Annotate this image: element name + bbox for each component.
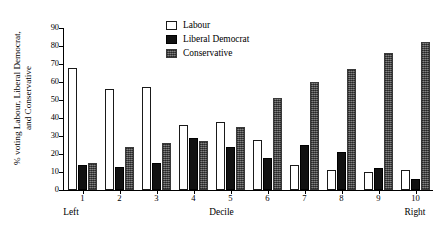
- x-axis-tick-label-9: 9: [368, 193, 390, 203]
- bar-cons-decile-5: [236, 127, 246, 190]
- y-axis-tick: [59, 82, 63, 83]
- bar-labour-decile-9: [364, 172, 374, 190]
- x-axis-tick-label-10: 10: [405, 193, 427, 203]
- y-axis-tick: [59, 190, 63, 191]
- y-axis-tick: [59, 64, 63, 65]
- bar-group-decile-8: [327, 28, 357, 190]
- bar-cons-decile-9: [384, 53, 394, 190]
- y-axis-tick: [59, 46, 63, 47]
- y-axis-tick-label: 20: [43, 150, 59, 158]
- x-axis-tick-label-3: 3: [146, 193, 168, 203]
- x-axis-tick-label-6: 6: [257, 193, 279, 203]
- y-axis-tick: [59, 100, 63, 101]
- legend-swatch-labour-icon: [166, 21, 177, 30]
- bar-labour-decile-4: [179, 125, 189, 190]
- bar-labour-decile-7: [290, 165, 300, 190]
- x-axis-tick-label-2: 2: [109, 193, 131, 203]
- y-axis-tick-label: 90: [43, 24, 59, 32]
- x-axis-line: [63, 190, 433, 191]
- y-axis-tick-label: 80: [43, 42, 59, 50]
- y-axis-tick: [59, 136, 63, 137]
- y-axis-tick-label: 30: [43, 132, 59, 140]
- bar-cons-decile-8: [347, 69, 357, 190]
- bar-chart-figure: % voting Labour, Liberal Democrat, and C…: [0, 0, 443, 234]
- y-axis-title: % voting Labour, Liberal Democrat, and C…: [0, 0, 46, 195]
- bar-libdem-decile-8: [337, 152, 347, 190]
- legend-item-libdem: Liberal Democrat: [166, 32, 316, 46]
- bar-labour-decile-2: [105, 89, 115, 190]
- bar-group-decile-1: [68, 28, 98, 190]
- bar-labour-decile-1: [68, 68, 78, 190]
- bar-libdem-decile-2: [115, 167, 125, 190]
- bar-cons-decile-6: [273, 98, 283, 190]
- bar-cons-decile-3: [162, 143, 172, 190]
- y-axis-tick-label: 70: [43, 60, 59, 68]
- bar-labour-decile-6: [253, 140, 263, 190]
- bar-labour-decile-5: [216, 122, 226, 190]
- bar-group-decile-10: [401, 28, 431, 190]
- y-axis-tick-label: 50: [43, 96, 59, 104]
- y-axis-tick: [59, 172, 63, 173]
- bar-libdem-decile-10: [411, 179, 421, 190]
- bar-libdem-decile-5: [226, 147, 236, 190]
- y-axis-title-line2: and Conservative: [23, 31, 34, 165]
- bar-labour-decile-3: [142, 87, 152, 190]
- bar-libdem-decile-1: [78, 165, 88, 190]
- y-axis-tick-label: 0: [43, 186, 59, 194]
- y-axis-title-line1: % voting Labour, Liberal Democrat,: [12, 31, 22, 165]
- x-axis-tick-label-1: 1: [72, 193, 94, 203]
- bar-libdem-decile-9: [374, 168, 384, 190]
- bar-cons-decile-10: [421, 42, 431, 190]
- bar-cons-decile-7: [310, 82, 320, 190]
- bar-cons-decile-1: [88, 163, 98, 190]
- x-axis-title: Decile: [0, 207, 443, 217]
- x-axis-tick-label-7: 7: [294, 193, 316, 203]
- bar-group-decile-2: [105, 28, 135, 190]
- y-axis-tick: [59, 154, 63, 155]
- legend-label-labour: Labour: [183, 20, 210, 31]
- bar-cons-decile-2: [125, 147, 135, 190]
- x-axis-tick-label-5: 5: [220, 193, 242, 203]
- legend-label-cons: Conservative: [183, 48, 232, 59]
- bar-libdem-decile-7: [300, 145, 310, 190]
- bar-cons-decile-4: [199, 141, 209, 190]
- legend-label-libdem: Liberal Democrat: [183, 34, 249, 45]
- legend-item-labour: Labour: [166, 18, 316, 32]
- chart-legend: LabourLiberal DemocratConservative: [166, 18, 316, 60]
- bar-labour-decile-8: [327, 170, 337, 190]
- x-axis-tick-labels: 12345678910: [63, 193, 433, 205]
- y-axis-tick: [59, 28, 63, 29]
- bar-labour-decile-10: [401, 170, 411, 190]
- bar-group-decile-9: [364, 28, 394, 190]
- y-axis-tick-label: 60: [43, 78, 59, 86]
- legend-swatch-libdem-icon: [166, 35, 177, 44]
- bar-libdem-decile-4: [189, 138, 199, 190]
- x-axis-tick-label-8: 8: [331, 193, 353, 203]
- y-axis-tick-label: 10: [43, 168, 59, 176]
- x-axis-right-end-label: Right: [392, 207, 438, 217]
- legend-swatch-cons-icon: [166, 49, 177, 58]
- bar-libdem-decile-6: [263, 158, 273, 190]
- y-axis-tick: [59, 118, 63, 119]
- y-axis-tick-label: 40: [43, 114, 59, 122]
- x-axis-tick-label-4: 4: [183, 193, 205, 203]
- legend-item-cons: Conservative: [166, 46, 316, 60]
- y-axis-tick-labels: 0102030405060708090: [42, 28, 59, 190]
- bar-libdem-decile-3: [152, 163, 162, 190]
